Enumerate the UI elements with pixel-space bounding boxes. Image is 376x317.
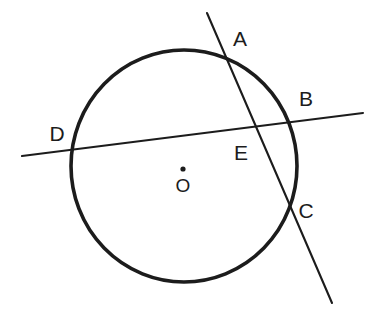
geometry-figure: A B C D E O: [0, 0, 376, 317]
point-label-c: C: [298, 199, 313, 222]
center-dot-icon: [180, 166, 185, 171]
point-label-a: A: [233, 27, 247, 50]
point-label-d: D: [49, 122, 64, 145]
point-label-b: B: [299, 87, 313, 110]
geometry-canvas: A B C D E O: [0, 0, 376, 317]
center-label-o: O: [176, 175, 191, 196]
point-label-e: E: [234, 141, 248, 164]
figure-background: [0, 0, 376, 317]
